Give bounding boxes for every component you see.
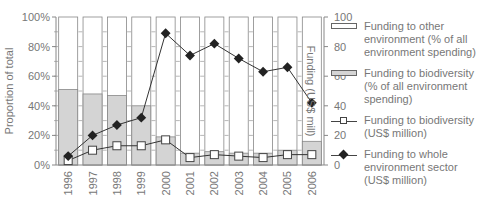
- legend-label: environment sector: [364, 161, 458, 174]
- left-tick-label: 100%: [22, 11, 50, 23]
- line-square-icon: [328, 114, 364, 128]
- square-marker: [162, 136, 170, 144]
- left-tick-label: 60%: [28, 70, 50, 82]
- left-tick-label: 20%: [28, 129, 50, 141]
- bar-other-environment: [180, 17, 199, 165]
- right-axis-title: Funding (US$ mill): [305, 45, 317, 136]
- square-marker: [259, 154, 267, 162]
- legend-item-biodiversity-pct: Funding to biodiversity (% of all enviro…: [328, 67, 478, 106]
- legend-label: Funding to biodiversity: [364, 67, 474, 80]
- square-marker: [89, 146, 97, 154]
- bar-other-environment: [278, 17, 297, 165]
- legend-label: environment (% of all: [364, 33, 476, 46]
- legend-label: Funding to whole: [364, 148, 458, 161]
- square-marker: [186, 154, 194, 162]
- square-marker: [113, 142, 121, 150]
- square-marker: [235, 152, 243, 160]
- left-tick-label: 40%: [28, 100, 50, 112]
- grey-bar-icon: [328, 67, 364, 81]
- open-bar-icon: [328, 20, 364, 34]
- x-tick-label: 1996: [62, 171, 74, 195]
- x-tick-label: 2006: [306, 171, 318, 195]
- legend-item-whole-environment-usd: Funding to whole environment sector (US$…: [328, 148, 478, 187]
- x-tick-label: 2004: [257, 171, 269, 195]
- square-marker: [283, 151, 291, 159]
- plot-area: 1996199719981999200020012002200320042005…: [22, 11, 353, 195]
- x-tick-label: 2005: [281, 171, 293, 195]
- legend-item-other-environment: Funding to other environment (% of all e…: [328, 20, 478, 59]
- legend-label: spending): [364, 93, 474, 106]
- square-marker: [137, 142, 145, 150]
- bar-other-environment: [229, 17, 248, 165]
- x-tick-label: 1999: [135, 171, 147, 195]
- bar-biodiversity: [107, 95, 126, 165]
- legend-label: environment spending): [364, 46, 476, 59]
- legend-label: (US$ million): [364, 127, 474, 140]
- legend-label: Funding to other: [364, 20, 476, 33]
- legend-label: Funding to biodiversity: [364, 114, 474, 127]
- legend-label: (US$ million): [364, 174, 458, 187]
- x-tick-label: 2003: [233, 171, 245, 195]
- square-marker: [308, 151, 316, 159]
- x-tick-label: 2001: [184, 171, 196, 195]
- left-tick-label: 80%: [28, 41, 50, 53]
- x-tick-label: 1998: [111, 171, 123, 195]
- x-tick-label: 2000: [160, 171, 172, 195]
- legend: Funding to other environment (% of all e…: [328, 20, 478, 195]
- bar-other-environment: [254, 17, 273, 165]
- x-tick-label: 2002: [208, 171, 220, 195]
- square-marker: [210, 151, 218, 159]
- left-tick-label: 0%: [34, 159, 50, 171]
- left-axis-title: Proportion of total: [3, 48, 15, 135]
- line-diamond-icon: [328, 148, 364, 162]
- legend-label: (% of all environment: [364, 80, 474, 93]
- x-tick-label: 1997: [87, 171, 99, 195]
- legend-item-biodiversity-usd: Funding to biodiversity (US$ million): [328, 114, 478, 140]
